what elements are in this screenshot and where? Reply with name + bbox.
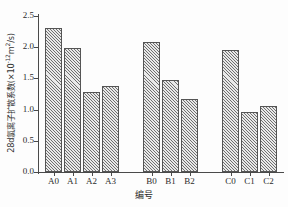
x-tick-label-a0: A0: [44, 176, 64, 186]
y-tick-mark: [34, 78, 38, 79]
x-tick-label-b2: B2: [180, 176, 200, 186]
y-axis-title-prefix: 28d氯离子扩散系数(×10: [6, 63, 16, 152]
plot-area: 0.00.51.01.52.02.5: [38, 16, 282, 172]
bar-c0: [222, 50, 239, 172]
y-axis-title-suffix: /s): [6, 33, 16, 43]
y-tick-mark: [34, 141, 38, 142]
y-tick-mark: [34, 16, 38, 17]
y-tick-mark: [34, 47, 38, 48]
bar-a3: [102, 86, 119, 172]
x-tick-label-a2: A2: [82, 176, 102, 186]
bar-b2: [181, 99, 198, 172]
x-tick-label-c0: C0: [221, 176, 241, 186]
bar-a1: [64, 48, 81, 172]
y-tick-label: 2.0: [23, 41, 34, 51]
bar-c2: [260, 106, 277, 172]
x-axis-line: [38, 172, 284, 173]
bar-b1: [162, 80, 179, 172]
y-axis-title-exponent2: 2: [4, 42, 11, 46]
x-tick-label-b1: B1: [161, 176, 181, 186]
y-axis-title-mid: m: [6, 46, 16, 54]
x-tick-label-c2: C2: [259, 176, 279, 186]
y-tick-mark: [34, 172, 38, 173]
bar-b0: [143, 42, 160, 172]
x-tick-label-a1: A1: [63, 176, 83, 186]
y-axis-title-wrapper: 28d氯离子扩散系数(×10-12m2/s): [0, 0, 20, 185]
bar-c1: [241, 112, 258, 172]
bar-a0: [45, 28, 62, 172]
y-axis-title: 28d氯离子扩散系数(×10-12m2/s): [4, 33, 16, 153]
y-tick-label: 0.0: [23, 166, 34, 176]
bar-a2: [83, 92, 100, 172]
y-tick-label: 0.5: [23, 135, 34, 145]
x-tick-label-a3: A3: [101, 176, 121, 186]
y-tick-label: 2.5: [23, 10, 34, 20]
x-tick-label-b0: B0: [142, 176, 162, 186]
y-tick-mark: [34, 110, 38, 111]
y-tick-label: 1.0: [23, 104, 34, 114]
y-tick-label: 1.5: [23, 72, 34, 82]
x-tick-label-c1: C1: [240, 176, 260, 186]
chart-figure: 28d氯离子扩散系数(×10-12m2/s) 0.00.51.01.52.02.…: [0, 0, 288, 207]
y-axis-title-exponent: -12: [4, 54, 11, 63]
x-axis-title: 编号: [0, 188, 288, 201]
